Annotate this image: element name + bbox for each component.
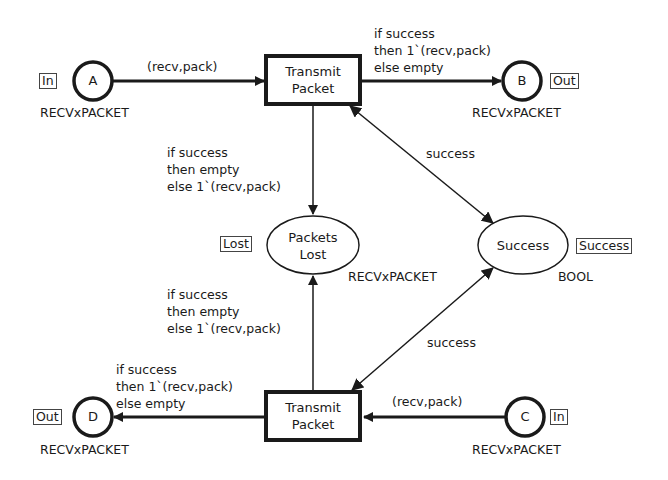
colorset-a: RECVxPACKET <box>40 104 129 121</box>
port-tag-a-in: In <box>39 73 57 89</box>
inscription-top-to-lost: if success then empty else 1`(recv,pack) <box>167 144 281 195</box>
packets-lost-label-line2: Lost <box>273 246 353 263</box>
inscription-a-to-top: (recv,pack) <box>147 58 217 75</box>
packets-lost-label-line1: Packets <box>273 229 353 246</box>
colorset-b: RECVxPACKET <box>472 104 561 121</box>
place-d-label: D <box>83 408 103 425</box>
success-place-label: Success <box>483 237 563 254</box>
inscription-top-to-b: if success then 1`(recv,pack) else empty <box>374 25 491 76</box>
port-tag-b-out: Out <box>550 73 579 89</box>
port-tag-d-out: Out <box>33 409 62 425</box>
inscription-bottom-to-d: if success then 1`(recv,pack) else empty <box>116 361 233 412</box>
transition-bottom-label-line2: Packet <box>266 416 360 433</box>
transition-bottom-label-line1: Transmit <box>266 399 360 416</box>
colorset-d: RECVxPACKET <box>40 441 129 458</box>
place-a-label: A <box>83 72 103 89</box>
inscription-bottom-success: success <box>427 334 476 351</box>
inscription-bottom-to-lost: if success then empty else 1`(recv,pack) <box>167 286 281 337</box>
colorset-packets-lost: RECVxPACKET <box>348 268 437 285</box>
fusion-tag-lost: Lost <box>220 236 252 252</box>
place-c-label: C <box>515 408 535 425</box>
inscription-top-success: success <box>426 145 475 162</box>
port-tag-c-in: In <box>550 409 568 425</box>
transition-top-label-line2: Packet <box>266 80 360 97</box>
colorset-c: RECVxPACKET <box>472 441 561 458</box>
arc-bottom-success <box>352 268 493 390</box>
arc-top-success <box>350 106 493 223</box>
colorset-success: BOOL <box>558 268 593 285</box>
transition-top-label-line1: Transmit <box>266 63 360 80</box>
inscription-c-to-bottom: (recv,pack) <box>392 393 462 410</box>
place-b-label: B <box>512 72 532 89</box>
fusion-tag-success: Success <box>576 238 632 254</box>
